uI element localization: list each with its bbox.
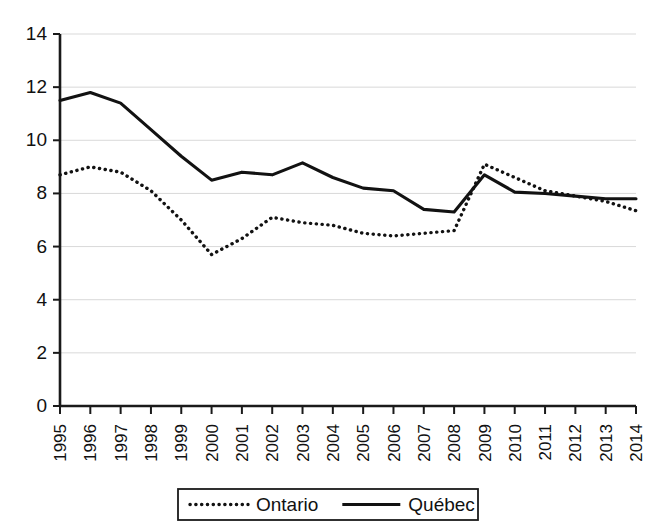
x-tick-label: 1998 bbox=[142, 424, 161, 462]
x-tick-label: 2009 bbox=[476, 424, 495, 462]
line-chart: 02468101214 1995199619971998199920002001… bbox=[0, 0, 651, 530]
x-tick-label: 2007 bbox=[415, 424, 434, 462]
y-tick-label: 12 bbox=[26, 76, 47, 97]
x-tick-label: 2003 bbox=[294, 424, 313, 462]
legend-label-qubec: Québec bbox=[408, 494, 475, 515]
y-tick-label: 14 bbox=[26, 23, 48, 44]
x-tick-label: 1997 bbox=[112, 424, 131, 462]
x-tick-label: 2001 bbox=[233, 424, 252, 462]
x-tick-label: 2000 bbox=[203, 424, 222, 462]
chart-canvas: 02468101214 1995199619971998199920002001… bbox=[0, 0, 651, 530]
x-tick-labels: 1995199619971998199920002001200220032004… bbox=[51, 424, 646, 462]
legend-label-ontario: Ontario bbox=[256, 494, 318, 515]
x-tick-label: 2008 bbox=[445, 424, 464, 462]
x-tick-label: 1995 bbox=[51, 424, 70, 462]
legend: OntarioQuébec bbox=[178, 489, 478, 520]
x-tick-label: 2006 bbox=[385, 424, 404, 462]
series-group bbox=[60, 92, 636, 254]
x-tick-label: 2011 bbox=[536, 424, 555, 461]
x-tick-label: 2013 bbox=[597, 424, 616, 462]
x-tick-label: 2010 bbox=[506, 424, 525, 462]
x-tick-label: 2004 bbox=[324, 424, 343, 462]
x-axis bbox=[60, 406, 636, 414]
y-tick-label: 2 bbox=[36, 342, 47, 363]
x-tick-label: 2002 bbox=[263, 424, 282, 462]
x-tick-label: 2005 bbox=[354, 424, 373, 462]
y-tick-label: 8 bbox=[36, 182, 47, 203]
series-line-qubec bbox=[60, 92, 636, 212]
series-line-ontario bbox=[60, 164, 636, 254]
y-tick-label: 0 bbox=[36, 395, 47, 416]
x-tick-label: 1996 bbox=[81, 424, 100, 462]
y-axis bbox=[53, 34, 60, 406]
y-tick-label: 6 bbox=[36, 236, 47, 257]
y-tick-labels: 02468101214 bbox=[26, 23, 48, 416]
y-tick-label: 4 bbox=[36, 289, 47, 310]
x-tick-label: 2012 bbox=[566, 424, 585, 462]
y-tick-label: 10 bbox=[26, 129, 47, 150]
x-tick-label: 2014 bbox=[627, 424, 646, 462]
x-tick-label: 1999 bbox=[172, 424, 191, 462]
